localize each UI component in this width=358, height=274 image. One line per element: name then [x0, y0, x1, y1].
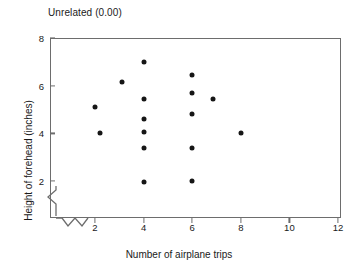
data-point: [190, 145, 195, 150]
data-point: [190, 112, 195, 117]
plot-area: [50, 38, 341, 218]
data-point: [210, 96, 215, 101]
x-axis-break-icon: [56, 211, 90, 227]
x-tick-label: 4: [132, 222, 156, 233]
y-tick-mark: [50, 37, 55, 38]
x-tick-label: 6: [180, 222, 204, 233]
data-point: [119, 80, 124, 85]
data-point: [238, 131, 243, 136]
y-tick-label: 2: [39, 176, 44, 187]
data-point: [141, 117, 146, 122]
y-axis-label: Height of forehead (inches): [23, 66, 34, 256]
data-point: [141, 180, 146, 185]
y-tick-label: 8: [39, 33, 44, 44]
y-tick-mark: [50, 85, 55, 86]
data-point: [190, 72, 195, 77]
x-tick-label: 10: [277, 222, 301, 233]
data-point: [97, 131, 102, 136]
data-point: [93, 105, 98, 110]
data-point: [141, 145, 146, 150]
x-tick-label: 8: [229, 222, 253, 233]
data-point: [141, 59, 146, 64]
y-tick-label: 4: [39, 128, 44, 139]
data-point: [190, 179, 195, 184]
chart-title: Unrelated (0.00): [48, 7, 122, 18]
data-point: [141, 96, 146, 101]
scatter-plot-figure: Unrelated (0.00) 2468 24681012 Height of…: [0, 0, 358, 274]
y-tick-label: 6: [39, 80, 44, 91]
y-tick-mark: [50, 133, 55, 134]
y-axis-label-container: Height of forehead (inches): [8, 35, 22, 205]
x-tick-label: 12: [326, 222, 350, 233]
x-axis-label: Number of airplane trips: [0, 249, 358, 260]
y-tick-mark: [50, 180, 55, 181]
data-point: [141, 130, 146, 135]
data-point: [190, 90, 195, 95]
